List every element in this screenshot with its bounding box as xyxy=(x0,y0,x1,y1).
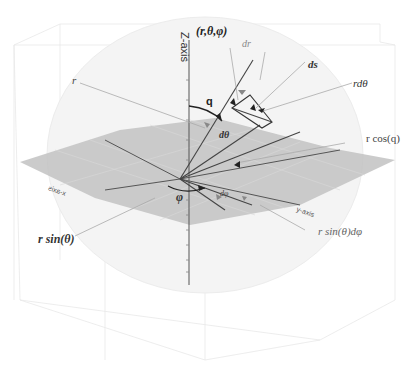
q-label: q xyxy=(206,95,213,107)
phi-label: φ xyxy=(176,190,183,204)
point-label: (r,θ,φ) xyxy=(196,24,227,38)
r-sin-theta-dphi-label: r sin(θ)dφ xyxy=(318,225,362,238)
spherical-coordinates-diagram: Z-axis (r,θ,φ) dr ds rdθ r q dθ r cos(q)… xyxy=(0,0,420,368)
ds-label: ds xyxy=(308,58,318,70)
r-sin-theta-label: r sin(θ) xyxy=(38,232,75,246)
r-cos-q-label: r cos(q) xyxy=(366,132,400,145)
dtheta-label: dθ xyxy=(219,129,230,140)
r-dtheta-label: rdθ xyxy=(353,77,368,89)
dr-label: dr xyxy=(242,38,251,49)
dphi-label: dφ xyxy=(220,189,229,198)
r-label: r xyxy=(72,74,77,86)
z-axis-label: Z-axis xyxy=(179,32,191,62)
